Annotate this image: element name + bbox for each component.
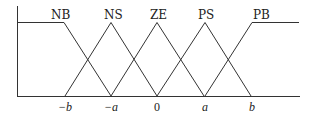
set-nb-curve	[17, 23, 111, 97]
tick-b: b	[249, 100, 255, 114]
set-ns-curve	[65, 23, 157, 97]
tick-zero: 0	[154, 100, 160, 114]
tick-a: a	[202, 100, 208, 114]
set-ze-curve	[111, 23, 204, 97]
set-label-ze: ZE	[150, 8, 167, 22]
set-label-ps: PS	[198, 8, 214, 22]
set-ps-curve	[157, 23, 251, 97]
tick-neg-a: −a	[104, 100, 118, 114]
set-label-pb: PB	[253, 8, 270, 22]
set-pb-curve	[205, 23, 299, 97]
set-label-nb: NB	[51, 8, 71, 22]
membership-function-diagram: NB NS ZE PS PB −b −a 0 a b	[0, 0, 316, 118]
tick-neg-b: −b	[58, 100, 72, 114]
set-label-ns: NS	[104, 8, 123, 22]
diagram-canvas: NB NS ZE PS PB −b −a 0 a b	[0, 0, 316, 118]
